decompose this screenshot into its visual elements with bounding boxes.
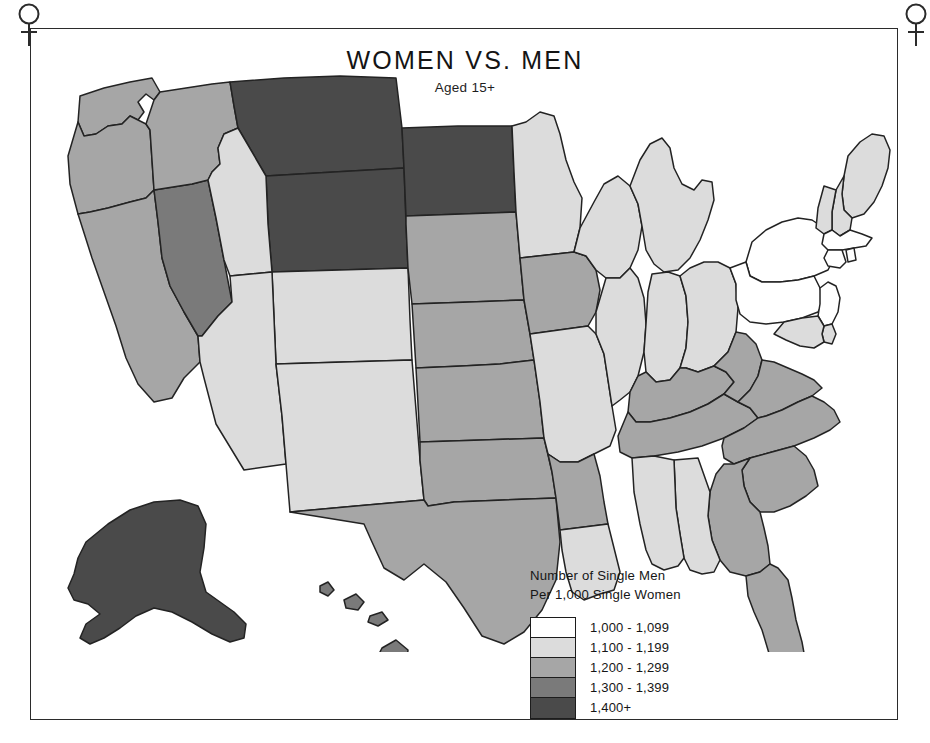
- legend-swatch-0: [531, 618, 575, 638]
- state-mi: [630, 138, 714, 272]
- state-me: [842, 134, 890, 218]
- state-mn: [512, 112, 582, 258]
- legend-caption-line1: Number of Single Men: [530, 566, 760, 585]
- legend-label-column: 1,000 - 1,0991,100 - 1,1991,200 - 1,2991…: [590, 617, 669, 718]
- legend-label-3: 1,300 - 1,399: [590, 678, 669, 698]
- state-ri: [846, 248, 856, 262]
- state-ks: [416, 360, 544, 442]
- legend-swatch-3: [531, 678, 575, 698]
- legend-caption-line2: Per 1,000 Single Women: [530, 585, 760, 604]
- legend-label-1: 1,100 - 1,199: [590, 638, 669, 658]
- legend-swatch-4: [531, 698, 575, 718]
- state-ma: [822, 230, 872, 250]
- choropleth-map: [34, 72, 896, 652]
- legend-swatch-1: [531, 638, 575, 658]
- state-ct: [824, 250, 846, 268]
- legend-label-2: 1,200 - 1,299: [590, 658, 669, 678]
- state-ok: [420, 438, 556, 506]
- venus-symbol-icon-left: [14, 2, 44, 48]
- map-legend: Number of Single Men Per 1,000 Single Wo…: [530, 566, 760, 719]
- legend-swatch-column: [530, 617, 576, 719]
- state-nj: [818, 282, 840, 326]
- state-ia: [520, 252, 600, 334]
- state-ak: [68, 500, 246, 644]
- map-page: WOMEN VS. MEN Aged 15+ Number of Single …: [0, 0, 930, 743]
- page-title: WOMEN VS. MEN: [0, 46, 930, 75]
- state-tx: [290, 498, 560, 644]
- legend-label-4: 1,400+: [590, 698, 669, 718]
- state-nm: [276, 360, 424, 512]
- state-wy: [266, 168, 408, 272]
- legend-label-0: 1,000 - 1,099: [590, 618, 669, 638]
- state-co: [272, 268, 412, 364]
- state-ne: [412, 300, 534, 368]
- legend-swatch-2: [531, 658, 575, 678]
- venus-symbol-icon-right: [901, 2, 930, 48]
- state-nd: [402, 126, 516, 216]
- state-sd: [406, 212, 524, 304]
- state-hi: [320, 582, 408, 652]
